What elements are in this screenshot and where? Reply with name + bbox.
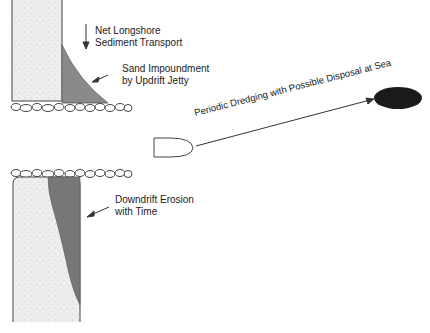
impoundment-label: Sand Impoundment by Updrift Jetty — [122, 63, 209, 87]
impoundment-label-line2: by Updrift Jetty — [122, 75, 209, 87]
longshore-label-line1: Net Longshore — [95, 25, 182, 37]
downdrift-jetty — [11, 170, 132, 178]
erosion-label-line2: with Time — [115, 206, 194, 218]
updrift-beach — [12, 0, 62, 101]
disposal-site — [374, 87, 422, 109]
erosion-label: Downdrift Erosion with Time — [115, 194, 194, 218]
longshore-label-line2: Sediment Transport — [95, 37, 182, 49]
erosion-pointer-icon — [87, 207, 109, 217]
diagram-canvas — [0, 0, 430, 333]
sand-impoundment — [62, 45, 108, 103]
updrift-jetty — [11, 104, 132, 112]
longshore-arrow-icon — [83, 24, 89, 49]
dredge-site-icon — [154, 138, 193, 157]
erosion-label-line1: Downdrift Erosion — [115, 194, 194, 206]
longshore-label: Net Longshore Sediment Transport — [95, 25, 182, 49]
impoundment-pointer-icon — [92, 75, 108, 82]
impoundment-label-line1: Sand Impoundment — [122, 63, 209, 75]
